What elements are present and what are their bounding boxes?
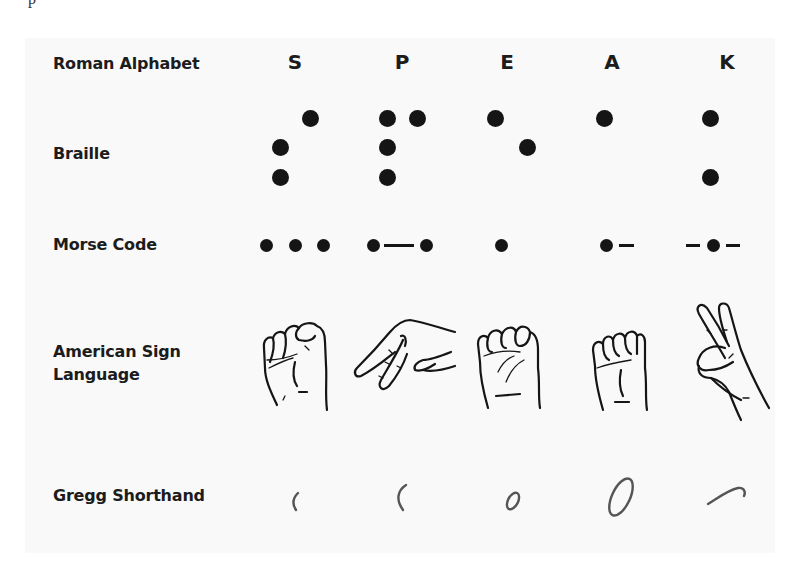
morse-dash <box>384 244 414 247</box>
roman-letter-p: P <box>387 50 417 74</box>
morse-dash <box>686 244 700 247</box>
hand-sign-a-icon <box>585 310 655 420</box>
morse-dot <box>260 239 273 252</box>
row-label-gregg-shorthand: Gregg Shorthand <box>53 484 205 507</box>
writing-systems-panel <box>25 38 775 553</box>
row-label-asl-line2: Language <box>53 363 181 386</box>
morse-dot <box>367 239 380 252</box>
morse-dot <box>707 239 720 252</box>
morse-dot <box>600 239 613 252</box>
morse-dot <box>289 239 302 252</box>
roman-letter-a: A <box>597 50 627 74</box>
gregg-s-stroke-icon <box>290 490 302 516</box>
hand-sign-k-icon <box>685 300 780 425</box>
braille-dot <box>409 110 426 127</box>
braille-dot <box>272 139 289 156</box>
roman-letter-s: S <box>280 50 310 74</box>
morse-dot <box>317 239 330 252</box>
gregg-k-stroke-icon <box>704 482 750 508</box>
row-label-roman-alphabet: Roman Alphabet <box>53 52 199 75</box>
gregg-e-stroke-icon <box>504 488 522 514</box>
braille-dot <box>379 139 396 156</box>
morse-dot <box>420 239 433 252</box>
braille-dot <box>379 169 396 186</box>
hand-sign-e-icon <box>470 310 550 420</box>
braille-dot <box>702 169 719 186</box>
gregg-p-stroke-icon <box>394 482 410 516</box>
braille-dot <box>272 169 289 186</box>
hand-sign-p-icon <box>345 310 460 400</box>
braille-dot <box>519 139 536 156</box>
braille-dot <box>302 110 319 127</box>
braille-dot <box>702 110 719 127</box>
hand-sign-s-icon <box>255 310 345 420</box>
morse-dash <box>726 244 740 247</box>
braille-dot <box>487 110 504 127</box>
row-label-asl: American Sign Language <box>53 340 181 386</box>
morse-dash <box>619 244 634 247</box>
braille-dot <box>596 110 613 127</box>
row-label-braille: Braille <box>53 142 110 165</box>
row-label-asl-line1: American Sign <box>53 340 181 363</box>
morse-dot <box>495 239 508 252</box>
cropped-text-fragment: p <box>28 0 36 8</box>
roman-letter-k: K <box>712 50 742 74</box>
roman-letter-e: E <box>492 50 522 74</box>
gregg-a-stroke-icon <box>604 474 638 520</box>
braille-dot <box>379 110 396 127</box>
row-label-morse-code: Morse Code <box>53 233 157 256</box>
